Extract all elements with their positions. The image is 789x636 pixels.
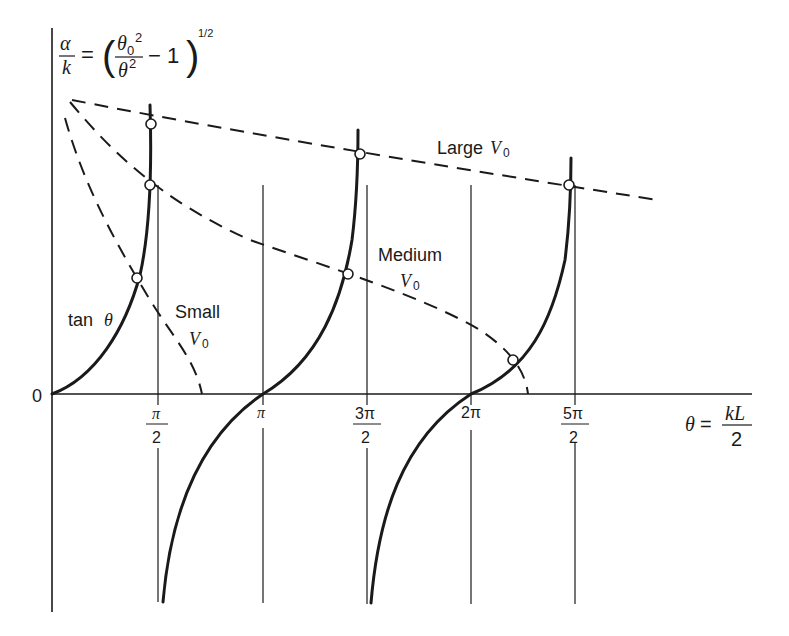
tick-label-pi-over-2: π 2 — [146, 405, 168, 446]
small-v0-label: Small V 0 — [175, 302, 220, 351]
svg-text:2: 2 — [129, 56, 136, 71]
v0-curves — [65, 100, 658, 394]
tick-label-2pi: 2π — [461, 404, 481, 421]
svg-text:0: 0 — [503, 146, 510, 160]
svg-text:): ) — [186, 34, 199, 78]
svg-text:2: 2 — [361, 429, 370, 446]
svg-text:k: k — [62, 56, 72, 78]
svg-text:Small: Small — [175, 302, 220, 322]
alpha-over-k-formula: α k = ( θ 0 2 θ 2 − 1 ) 1/2 — [59, 27, 213, 81]
svg-text:V: V — [490, 138, 503, 158]
svg-text:θ: θ — [685, 413, 695, 435]
svg-text:π: π — [152, 405, 161, 422]
svg-text:=: = — [81, 42, 94, 67]
svg-text:θ: θ — [118, 59, 128, 81]
tan-theta-curve — [52, 105, 571, 603]
svg-text:2π: 2π — [461, 404, 481, 421]
svg-text:1/2: 1/2 — [198, 27, 213, 39]
small-v0-curve — [65, 118, 202, 394]
svg-text:V: V — [189, 329, 202, 349]
svg-text:Medium: Medium — [378, 245, 442, 265]
tick-label-pi: π — [257, 404, 266, 421]
svg-text:(: ( — [102, 34, 116, 78]
svg-text:2: 2 — [569, 429, 578, 446]
svg-text:3π: 3π — [355, 405, 375, 422]
tick-label-5pi-over-2: 5π 2 — [561, 405, 589, 446]
svg-text:α: α — [60, 32, 71, 54]
svg-text:θ: θ — [117, 32, 127, 54]
svg-text:2: 2 — [731, 428, 742, 450]
svg-text:2: 2 — [135, 30, 142, 45]
svg-text:θ: θ — [104, 310, 113, 330]
svg-text:2: 2 — [152, 429, 161, 446]
svg-text:Large: Large — [437, 138, 483, 158]
svg-text:− 1: − 1 — [148, 43, 179, 68]
svg-text:0: 0 — [413, 279, 420, 293]
svg-text:tan: tan — [68, 310, 93, 330]
svg-text:=: = — [700, 413, 712, 435]
svg-text:0: 0 — [202, 337, 209, 351]
large-v0-label: Large V 0 — [437, 138, 510, 160]
square-well-graphical-solution: α k = ( θ 0 2 θ 2 − 1 ) 1/2 0 π 2 π 3π 2… — [0, 0, 789, 636]
svg-text:5π: 5π — [563, 405, 583, 422]
svg-text:kL: kL — [725, 402, 745, 424]
tan-theta-label: tan θ — [68, 310, 113, 330]
x-axis-label: θ = kL 2 — [685, 402, 752, 450]
svg-text:V: V — [400, 271, 413, 291]
medium-v0-label: Medium V 0 — [378, 245, 442, 293]
tick-label-3pi-over-2: 3π 2 — [353, 405, 381, 446]
origin-label: 0 — [32, 386, 42, 406]
svg-text:π: π — [257, 404, 266, 421]
